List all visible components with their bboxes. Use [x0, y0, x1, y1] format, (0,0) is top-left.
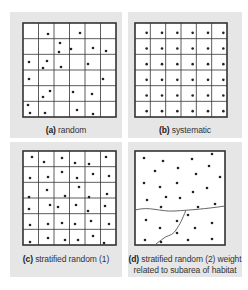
sample-point — [88, 163, 91, 166]
sample-point — [161, 47, 164, 50]
sample-point — [79, 32, 82, 35]
sample-point — [102, 78, 105, 81]
sample-point — [44, 112, 47, 115]
sample-point — [176, 110, 179, 113]
sample-point — [222, 47, 225, 50]
sample-point — [103, 242, 106, 245]
sample-point — [207, 110, 210, 113]
sample-point — [191, 79, 194, 82]
sample-point — [145, 110, 148, 113]
sample-point — [145, 219, 148, 222]
sample-point — [195, 173, 198, 176]
sample-point — [78, 186, 81, 189]
sample-point — [197, 206, 200, 209]
sample-point — [92, 113, 95, 116]
sample-point — [145, 79, 148, 82]
sample-point — [49, 90, 52, 93]
sample-point — [176, 32, 179, 35]
sample-point — [57, 206, 60, 209]
sample-point — [47, 237, 50, 240]
caption-b: (b) systematic — [128, 125, 242, 136]
sample-point — [64, 239, 67, 242]
sample-point — [222, 110, 225, 113]
sample-point — [31, 156, 34, 159]
sample-point — [28, 208, 31, 211]
sample-point — [222, 94, 225, 97]
sample-point — [76, 177, 79, 180]
sample-point — [207, 47, 210, 50]
sample-point — [77, 239, 80, 242]
sample-point — [211, 153, 214, 156]
sample-point — [144, 239, 147, 242]
sample-point — [176, 94, 179, 97]
sample-point — [46, 189, 49, 192]
sample-point — [145, 47, 148, 50]
sample-point — [176, 220, 179, 223]
sample-point — [207, 32, 210, 35]
sample-point — [159, 186, 162, 189]
sample-point — [59, 42, 62, 45]
sample-point — [47, 33, 50, 36]
sample-point — [176, 232, 179, 235]
sample-point — [161, 110, 164, 113]
sample-point — [176, 79, 179, 82]
sample-point — [29, 224, 32, 227]
sample-point — [27, 104, 30, 107]
sample-point — [106, 193, 109, 196]
sample-point — [191, 94, 194, 97]
caption-d-text: stratified random (2) weight — [139, 254, 241, 264]
sample-point — [219, 176, 222, 179]
caption-a-letter: (a) — [46, 125, 56, 135]
sample-point — [179, 197, 182, 200]
sample-point — [176, 182, 179, 185]
sample-point — [104, 205, 107, 208]
sample-point — [162, 160, 165, 163]
sample-point — [108, 175, 111, 178]
caption-c-text: stratified random (1) — [33, 254, 109, 264]
sample-point — [207, 79, 210, 82]
caption-d: (d) stratified random (2) weight related… — [126, 254, 244, 276]
sample-point — [75, 204, 78, 207]
sample-point — [43, 161, 46, 164]
sample-point — [160, 206, 163, 209]
sample-point — [159, 227, 162, 230]
caption-a-text: random — [56, 125, 86, 135]
sample-point — [29, 177, 32, 180]
sample-point — [165, 196, 168, 199]
sample-point — [145, 32, 148, 35]
sample-point — [146, 199, 149, 202]
sample-point — [76, 109, 79, 112]
sample-point — [145, 94, 148, 97]
sample-point — [92, 235, 95, 238]
sample-point — [28, 78, 31, 81]
sampling-diagrams — [0, 0, 248, 290]
sample-point — [222, 63, 225, 66]
sample-point — [208, 165, 211, 168]
sample-point — [42, 96, 45, 99]
sample-point — [143, 182, 146, 185]
sample-point — [191, 110, 194, 113]
sample-point — [105, 156, 108, 159]
sample-point — [46, 60, 49, 63]
caption-c: (c) stratified random (1) — [10, 254, 122, 265]
sample-point — [177, 167, 180, 170]
caption-b-letter: (b) — [159, 125, 170, 135]
sample-point — [211, 222, 214, 225]
sample-point — [191, 32, 194, 35]
sample-point — [176, 47, 179, 50]
sample-point — [187, 239, 190, 242]
sample-point — [47, 223, 50, 226]
sample-point — [194, 227, 197, 230]
sample-point — [64, 195, 67, 198]
sample-point — [207, 94, 210, 97]
caption-a: (a) random — [10, 125, 122, 136]
caption-b-text: systematic — [170, 125, 211, 135]
sample-point — [49, 204, 52, 207]
sample-point — [191, 158, 194, 161]
sample-point — [42, 67, 45, 70]
sample-point — [192, 191, 195, 194]
sample-point — [161, 79, 164, 82]
sample-point — [61, 171, 64, 174]
sample-point — [143, 157, 146, 160]
sample-point — [28, 196, 31, 199]
